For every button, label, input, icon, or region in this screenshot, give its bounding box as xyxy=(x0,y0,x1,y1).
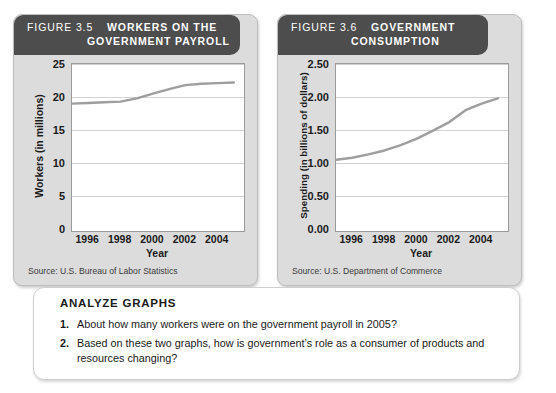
y-tick-label: 15 xyxy=(27,124,65,136)
x-tick-label: 2000 xyxy=(140,233,163,245)
analyze-question-2-text: Based on these two graphs, how is govern… xyxy=(77,336,500,365)
analyze-question-1: 1. About how many workers were on the go… xyxy=(60,317,500,332)
y-tick-label: 1.50 xyxy=(291,124,329,136)
y-tick-label: 0.50 xyxy=(291,190,329,202)
x-tick-label: 2004 xyxy=(469,233,492,245)
x-tick-label: 1998 xyxy=(372,233,395,245)
y-tick-label: 2.00 xyxy=(291,91,329,103)
x-tick-label: 1998 xyxy=(108,233,131,245)
data-series-line xyxy=(336,64,506,229)
figure-3-5-x-ticks: 19961998200020022004 xyxy=(71,233,243,247)
y-tick-label: 0.00 xyxy=(291,223,329,235)
analyze-question-1-number: 1. xyxy=(60,317,74,332)
figure-3-6-plot-area xyxy=(335,63,509,232)
figure-3-5-header: FIGURE 3.5 WORKERS ON THE GOVERNMENT PAY… xyxy=(14,15,240,55)
figure-3-6-y-ticks: 0.000.501.001.502.002.50 xyxy=(286,55,329,285)
y-tick-label: 20 xyxy=(27,91,65,103)
figure-3-5-title-line2: GOVERNMENT PAYROLL xyxy=(87,35,240,49)
analyze-question-2: 2. Based on these two graphs, how is gov… xyxy=(60,336,500,365)
y-tick-label: 1.00 xyxy=(291,157,329,169)
x-tick-label: 1996 xyxy=(76,233,99,245)
figure-3-5-x-axis-label: Year xyxy=(71,247,243,259)
x-tick-label: 1996 xyxy=(340,233,363,245)
y-tick-label: 25 xyxy=(27,58,65,70)
x-tick-label: 2000 xyxy=(404,233,427,245)
figure-spread: FIGURE 3.5 WORKERS ON THE GOVERNMENT PAY… xyxy=(0,0,556,393)
figure-3-6-x-axis-label: Year xyxy=(335,247,507,259)
figure-3-5-plot-area xyxy=(71,63,245,232)
figure-3-5-plot: Workers (in millions) 0510152025 1996199… xyxy=(14,55,257,285)
figure-card-3-5: FIGURE 3.5 WORKERS ON THE GOVERNMENT PAY… xyxy=(13,14,258,286)
y-tick-label: 2.50 xyxy=(291,58,329,70)
analyze-graphs-panel: ANALYZE GRAPHS 1. About how many workers… xyxy=(33,287,520,380)
x-tick-label: 2002 xyxy=(173,233,196,245)
figure-3-5-number: FIGURE 3.5 xyxy=(27,21,93,33)
figure-card-3-6: FIGURE 3.6 GOVERNMENT CONSUMPTION Spendi… xyxy=(277,14,522,286)
figure-3-6-header: FIGURE 3.6 GOVERNMENT CONSUMPTION xyxy=(278,15,488,55)
x-tick-label: 2004 xyxy=(205,233,228,245)
analyze-question-2-number: 2. xyxy=(60,336,74,351)
figure-3-5-title-line1: WORKERS ON THE xyxy=(107,21,217,33)
figure-3-6-x-ticks: 19961998200020022004 xyxy=(335,233,507,247)
figure-3-6-title-line2: CONSUMPTION xyxy=(351,35,488,49)
y-tick-label: 10 xyxy=(27,157,65,169)
analyze-graphs-title: ANALYZE GRAPHS xyxy=(60,297,176,309)
figure-3-5-source: Source: U.S. Bureau of Labor Statistics xyxy=(28,266,178,276)
y-tick-label: 5 xyxy=(27,190,65,202)
x-tick-label: 2002 xyxy=(437,233,460,245)
data-series-line xyxy=(72,64,242,229)
figure-3-6-title-line1: GOVERNMENT xyxy=(371,21,455,33)
figure-3-6-number: FIGURE 3.6 xyxy=(291,21,357,33)
y-tick-label: 0 xyxy=(27,223,65,235)
figure-3-6-source: Source: U.S. Department of Commerce xyxy=(292,266,442,276)
figure-3-6-plot: Spending (in billions of dollars) 0.000.… xyxy=(278,55,521,285)
figure-3-5-y-ticks: 0510152025 xyxy=(27,55,65,285)
analyze-question-1-text: About how many workers were on the gover… xyxy=(77,317,500,332)
